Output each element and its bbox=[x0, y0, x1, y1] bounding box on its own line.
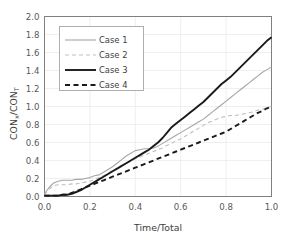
line-chart: 0.00.20.40.60.81.01.21.41.61.82.0 0.00.2… bbox=[0, 0, 283, 248]
legend-label-case-4[interactable]: Case 4 bbox=[99, 80, 128, 90]
y-tick-label: 0.4 bbox=[26, 156, 40, 166]
y-axis-title-base2: CON bbox=[8, 91, 19, 112]
x-axis-title-text: Time/Total bbox=[133, 222, 182, 233]
y-tick-label: 1.0 bbox=[26, 102, 40, 112]
y-tick-label: 2.0 bbox=[26, 12, 40, 22]
y-tick-label: 1.2 bbox=[26, 84, 40, 94]
x-tick-label: 0.2 bbox=[83, 202, 97, 212]
x-tick-label: 0.4 bbox=[128, 202, 142, 212]
y-tick-label: 1.4 bbox=[26, 66, 40, 76]
chart-legend[interactable]: Case 1Case 2Case 3Case 4 bbox=[60, 27, 144, 91]
y-tick-label: 0.6 bbox=[26, 138, 40, 148]
legend-label-case-2[interactable]: Case 2 bbox=[99, 50, 128, 60]
x-tick-label: 0.8 bbox=[219, 202, 233, 212]
y-tick-label: 0.2 bbox=[26, 174, 40, 184]
x-tick-label: 0.0 bbox=[38, 202, 52, 212]
x-axis-title: Time/Total bbox=[133, 222, 182, 233]
legend-label-case-1[interactable]: Case 1 bbox=[99, 35, 128, 45]
y-tick-label: 1.8 bbox=[26, 30, 40, 40]
y-tick-label: 0.0 bbox=[26, 192, 40, 202]
x-tick-label: 1.0 bbox=[265, 202, 279, 212]
legend-label-case-3[interactable]: Case 3 bbox=[99, 65, 128, 75]
x-tick-label: 0.6 bbox=[174, 202, 188, 212]
y-tick-label: 1.6 bbox=[26, 48, 40, 58]
chart-container: 0.00.20.40.60.81.01.21.41.61.82.0 0.00.2… bbox=[0, 0, 283, 248]
y-axis-title-base1: CON bbox=[8, 119, 19, 140]
y-tick-label: 0.8 bbox=[26, 120, 40, 130]
y-axis-title-sub2: T bbox=[13, 87, 21, 92]
